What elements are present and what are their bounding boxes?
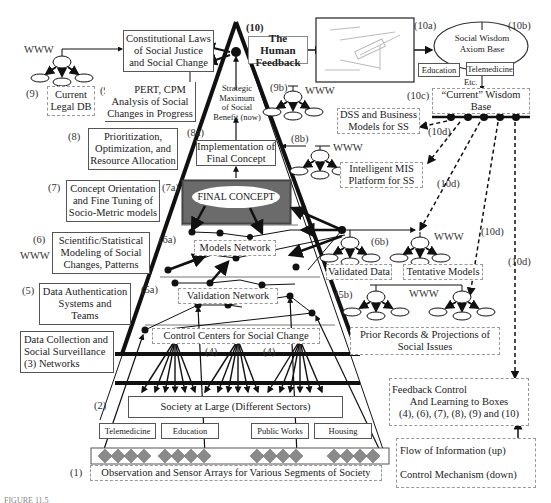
prior-records-box: Prior Records & Projections of Social Is…: [350, 327, 500, 355]
tag-etc: Etc.: [464, 77, 477, 87]
number-9: (9): [26, 88, 38, 99]
number-5b: (5b): [335, 289, 353, 300]
society-at-large-box: Society at Large (Different Sectors): [128, 396, 343, 418]
number-1: (1): [70, 467, 82, 478]
number-5a: (5a): [141, 284, 158, 295]
dss-box: DSS and Business Models for SS: [337, 108, 420, 134]
models-network-box: Models Network: [194, 240, 276, 256]
concept-orientation-box: Concept Orientation and Fine Tuning of S…: [66, 180, 160, 222]
validated-data-box: Validated Data: [326, 264, 392, 280]
legend-flow-up: Flow of Information (up): [400, 445, 506, 457]
www-label-8b: WWW: [333, 142, 363, 153]
pert-cpm-box: PERT, CPM Analysis of Social Changes in …: [105, 82, 196, 122]
number-5: (5): [22, 285, 34, 296]
validation-network-box: Validation Network: [178, 288, 278, 304]
sector-housing: Housing: [314, 423, 372, 439]
number-4b: (4): [263, 346, 275, 357]
figure-caption: FIGURE 11.5: [4, 495, 49, 503]
control-centers-box: Control Centers for Social Change: [152, 328, 320, 344]
www-label-6b: WWW: [434, 231, 464, 242]
number-7a: (7a): [162, 182, 179, 193]
data-collection-box: Data Collection and Social Surveillance …: [20, 331, 114, 373]
implementation-box: Implementation of Final Concept: [196, 140, 276, 166]
number-10b: (10b): [508, 20, 531, 31]
human-feedback-box: The Human Feedback: [248, 36, 308, 64]
www-label-5b: WWW: [409, 288, 439, 299]
number-8a: (8a): [187, 127, 204, 138]
intelligent-mis-box: Intelligent MIS Platform for SS: [340, 162, 423, 188]
strategic-maximum-box: Strategic Maximum of Social Benefit (now…: [208, 84, 266, 122]
wisdom-axiom-label: Social Wisdom Axiom Base: [447, 33, 517, 55]
www-label-6: WWW: [20, 250, 50, 261]
human-feedback-title: The Human Feedback: [250, 32, 306, 68]
sector-education: Education: [161, 423, 219, 439]
number-10c: (10c): [407, 90, 429, 101]
number-8: (8): [68, 131, 80, 142]
number-6: (6): [33, 234, 45, 245]
number-4a: (4): [205, 346, 217, 357]
number-3: (3): [24, 358, 36, 369]
sector-telemedicine: Telemedicine: [99, 423, 156, 439]
www-label-9b: WWW: [305, 85, 335, 96]
www-label-9: WWW: [24, 44, 54, 55]
number-2: (2): [94, 400, 106, 411]
current-legal-db-box: Current Legal DB: [47, 86, 95, 116]
feedback-control-box: Feedback Control And Learning to Boxes (…: [389, 378, 529, 426]
final-concept-label: FINAL CONCEPT: [197, 191, 275, 203]
constitutional-laws-box: Constitutional Laws of Social Justice an…: [123, 30, 214, 72]
tag-education: Education: [418, 63, 460, 77]
data-authentication-box: Data Authentication Systems and Teams: [39, 283, 131, 325]
sensor-arrays-box: Observation and Sensor Arrays for Variou…: [90, 465, 382, 481]
number-7: (7): [48, 182, 60, 193]
legend-box: Flow of Information (up) Control Mechani…: [396, 438, 536, 488]
number-10d-a: (10d): [428, 126, 451, 137]
tag-telemedicine: Telemedicine: [466, 62, 514, 76]
sector-public-works: Public Works: [251, 423, 309, 439]
number-6b: (6b): [371, 236, 389, 247]
prioritization-box: Prioritization, Optimization, and Resour…: [88, 128, 178, 170]
number-6a: (6a): [159, 234, 176, 245]
number-10d-d: (10d): [508, 256, 531, 267]
number-8b: (8b): [291, 133, 309, 144]
number-10d-c: (10d): [481, 226, 504, 237]
number-9b: (9b): [270, 82, 288, 93]
number-10d-b: (10d): [437, 178, 460, 189]
legend-control-down: Control Mechanism (down): [400, 469, 517, 481]
scientific-modeling-box: Scientific/Statistical Modeling of Socia…: [52, 232, 150, 274]
tentative-models-box: Tentative Models: [403, 264, 483, 280]
number-10a: (10a): [414, 20, 436, 31]
current-wisdom-base-box: “Current” Wisdom Base: [432, 88, 530, 114]
